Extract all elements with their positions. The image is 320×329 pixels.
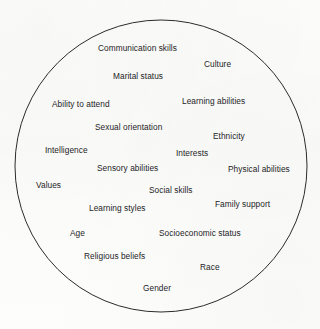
diagram-label: Values (36, 180, 61, 191)
diagram-label: Intelligence (45, 145, 88, 156)
diagram-label: Sexual orientation (95, 122, 162, 133)
diagram-label: Race (200, 262, 220, 273)
diagram-label: Interests (176, 148, 208, 159)
diagram-label: Age (70, 228, 85, 239)
diagram-label: Gender (143, 283, 171, 294)
diagram-label: Social skills (149, 185, 193, 196)
diagram-label: Family support (215, 199, 270, 210)
diagram-canvas: Communication skillsCultureMarital statu… (0, 0, 320, 329)
diagram-label: Ethnicity (213, 131, 245, 142)
diagram-label: Sensory abilities (97, 163, 158, 174)
diagram-label: Learning abilities (182, 96, 245, 107)
diagram-label: Communication skills (98, 43, 177, 54)
diagram-label: Ability to attend (52, 99, 110, 110)
diagram-label: Learning styles (89, 203, 146, 214)
diagram-label: Marital status (113, 71, 163, 82)
diagram-label: Physical abilities (228, 164, 290, 175)
diagram-label: Culture (204, 59, 231, 70)
diagram-label: Religious beliefs (84, 251, 145, 262)
diagram-label: Socioeconomic status (159, 228, 241, 239)
